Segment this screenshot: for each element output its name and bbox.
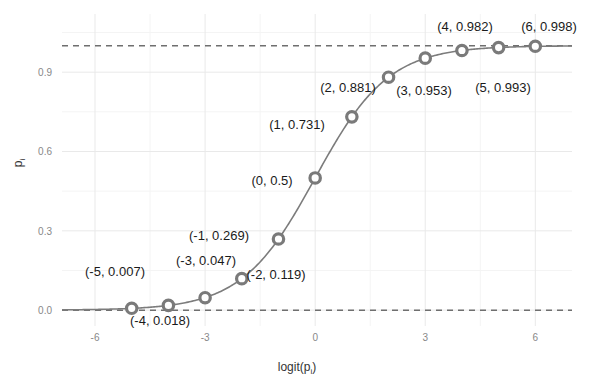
x-tick-label: 3	[422, 332, 428, 343]
data-point-marker	[493, 42, 503, 52]
point-annotation: (-3, 0.047)	[176, 253, 236, 268]
chart-background	[0, 0, 594, 384]
point-annotation: (2, 0.881)	[320, 80, 376, 95]
point-annotation: (3, 0.953)	[396, 83, 452, 98]
point-annotation: (-2, 0.119)	[246, 267, 305, 282]
point-annotation: (1, 0.731)	[269, 117, 325, 132]
point-annotation: (-5, 0.007)	[85, 264, 145, 279]
y-tick-label: 0.6	[38, 146, 52, 157]
point-annotation: (6, 0.998)	[521, 19, 577, 34]
y-axis-title-subscript: i	[18, 159, 27, 161]
data-point-marker	[457, 45, 467, 55]
x-tick-label: -6	[91, 332, 100, 343]
data-point-marker	[420, 53, 430, 63]
data-point-marker	[127, 303, 137, 313]
point-annotation: (-1, 0.269)	[189, 228, 249, 243]
y-tick-label: 0.3	[38, 226, 52, 237]
y-tick-label: 0.0	[38, 305, 52, 316]
logistic-curve-chart: -6-3036 0.00.30.60.9 (-5, 0.007)(-4, 0.0…	[0, 0, 594, 384]
data-point-marker	[163, 300, 173, 310]
x-axis-title-close: )	[312, 360, 316, 374]
data-point-marker	[200, 293, 210, 303]
point-annotation: (5, 0.993)	[475, 80, 531, 95]
data-point-marker	[310, 173, 320, 183]
data-point-marker	[347, 112, 357, 122]
x-tick-label: 6	[533, 332, 539, 343]
data-point-marker	[273, 234, 283, 244]
point-annotation: (-4, 0.018)	[130, 313, 190, 328]
data-point-marker	[237, 273, 247, 283]
point-annotation: (4, 0.982)	[437, 19, 493, 34]
chart-figure: -6-3036 0.00.30.60.9 (-5, 0.007)(-4, 0.0…	[0, 0, 594, 384]
x-tick-label: 0	[312, 332, 318, 343]
x-axis-title-base: logit(p	[278, 360, 311, 374]
data-point-marker	[530, 41, 540, 51]
point-annotation: (0, 0.5)	[251, 173, 292, 188]
x-tick-label: -3	[201, 332, 210, 343]
data-point-marker	[383, 72, 393, 82]
y-tick-label: 0.9	[38, 67, 52, 78]
